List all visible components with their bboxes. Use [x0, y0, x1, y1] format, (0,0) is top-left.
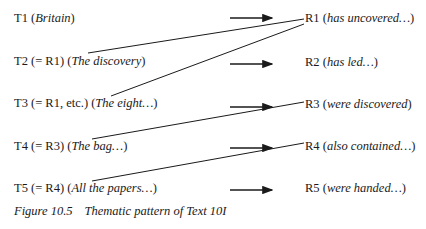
- theme-id: T3: [14, 96, 28, 110]
- theme-ref: (= R4): [31, 181, 64, 195]
- theme-gloss: Britain: [35, 11, 70, 25]
- rheme-id: R3: [305, 97, 320, 111]
- rheme-gloss: were handed…: [327, 181, 402, 195]
- rheme-gloss: were discovered: [327, 97, 408, 111]
- theme-ref: (= R3): [31, 139, 64, 153]
- theme-gloss: The discovery: [71, 54, 141, 68]
- figure-title: Thematic pattern of Text 10I: [85, 204, 227, 218]
- rheme-r3: R3 (were discovered): [305, 97, 412, 111]
- theme-id: T4: [14, 139, 28, 153]
- theme-gloss: All the papers…: [71, 181, 152, 195]
- theme-t3: T3 (= R1, etc.) (The eight…): [14, 96, 158, 110]
- rheme-r2: R2 (has led…): [305, 55, 378, 69]
- theme-t5: T5 (= R4) (All the papers…): [14, 181, 157, 195]
- figure-number: Figure 10.5: [14, 204, 73, 218]
- rheme-id: R2: [305, 55, 320, 69]
- theme-id: T5: [14, 181, 28, 195]
- rheme-id: R1: [305, 11, 320, 25]
- theme-ref: (= R1, etc.): [31, 96, 88, 110]
- rheme-id: R5: [305, 181, 320, 195]
- rheme-r1: R1 (has uncovered…): [305, 11, 414, 25]
- rheme-gloss: also contained…: [327, 139, 411, 153]
- theme-t4: T4 (= R3) (The bag…): [14, 139, 127, 153]
- theme-gloss: The eight…: [95, 96, 153, 110]
- rheme-id: R4: [305, 139, 320, 153]
- theme-id: T1: [14, 11, 28, 25]
- theme-t1: T1 (Britain): [14, 11, 75, 25]
- rheme-r4: R4 (also contained…): [305, 139, 415, 153]
- rheme-r5: R5 (were handed…): [305, 181, 406, 195]
- rheme-gloss: has led…: [327, 55, 374, 69]
- theme-id: T2: [14, 54, 28, 68]
- figure-caption: Figure 10.5Thematic pattern of Text 10I: [14, 204, 226, 219]
- theme-gloss: The bag…: [71, 139, 123, 153]
- theme-ref: (= R1): [31, 54, 64, 68]
- theme-t2: T2 (= R1) (The discovery): [14, 54, 145, 68]
- rheme-gloss: has uncovered…: [327, 11, 410, 25]
